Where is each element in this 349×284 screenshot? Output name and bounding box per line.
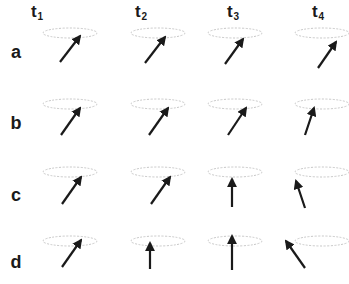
arrow-grid — [0, 0, 349, 284]
precession-orbit-ellipse — [131, 236, 185, 246]
precession-diagram: t1t2t3t4 abcd — [0, 0, 349, 284]
precession-orbit-ellipse — [208, 99, 262, 109]
precession-orbit-ellipse — [295, 28, 349, 38]
spin-vector-arrow-icon — [228, 108, 246, 135]
precession-orbit-ellipse — [208, 167, 262, 177]
precession-orbit-ellipse — [43, 236, 97, 246]
spin-vector-arrow-icon — [296, 181, 305, 208]
precession-orbit-ellipse — [43, 167, 97, 177]
precession-orbit-ellipse — [295, 236, 349, 246]
precession-orbit-ellipse — [131, 167, 185, 177]
spin-vector-arrow-icon — [225, 39, 243, 64]
spin-vector-arrow-icon — [62, 240, 81, 267]
precession-orbit-ellipse — [43, 99, 97, 109]
spin-vector-arrow-icon — [286, 241, 305, 268]
spin-vector-arrow-icon — [149, 108, 168, 135]
precession-orbit-ellipse — [208, 236, 262, 246]
precession-orbit-ellipse — [295, 99, 349, 109]
spin-vector-arrow-icon — [305, 108, 314, 135]
precession-orbit-ellipse — [131, 99, 185, 109]
spin-vector-arrow-icon — [62, 177, 81, 204]
precession-orbit-ellipse — [43, 28, 97, 38]
precession-orbit-ellipse — [208, 28, 262, 38]
spin-vector-arrow-icon — [60, 36, 80, 62]
spin-vector-arrow-icon — [61, 108, 80, 135]
precession-orbit-ellipse — [131, 28, 185, 38]
spin-vector-arrow-icon — [145, 37, 165, 63]
spin-vector-arrow-icon — [318, 42, 336, 68]
precession-orbit-ellipse — [295, 167, 349, 177]
spin-vector-arrow-icon — [151, 177, 170, 204]
